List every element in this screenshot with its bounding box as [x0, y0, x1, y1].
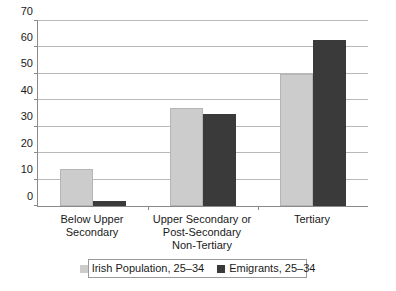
x-axis-category-label-line: Non-Tertiary: [147, 239, 257, 252]
bar-chart-figure: 010203040506070 Irish Population, 25–34 …: [0, 0, 396, 291]
legend-swatch-icon: [217, 265, 225, 273]
bar: [170, 108, 203, 206]
y-tick-mark: [34, 152, 38, 153]
legend-swatch-icon: [80, 265, 88, 273]
y-tick-mark: [34, 126, 38, 127]
legend-label: Emigrants, 25–34: [229, 263, 315, 274]
bar-group: [170, 21, 236, 206]
y-tick-mark: [34, 73, 38, 74]
y-tick-mark: [34, 99, 38, 100]
y-tick-mark: [34, 205, 38, 206]
y-axis-tick-label: 10: [21, 164, 33, 175]
x-tick-mark: [148, 206, 149, 210]
x-axis-category-label: Upper Secondary orPost-SecondaryNon-Tert…: [147, 213, 257, 252]
chart-legend: Irish Population, 25–34 Emigrants, 25–34: [88, 259, 307, 278]
x-axis-category-label-line: Post-Secondary: [147, 226, 257, 239]
y-axis-tick-label: 60: [21, 31, 33, 42]
legend-item-irish-population: Irish Population, 25–34: [80, 263, 205, 274]
bar: [280, 74, 313, 206]
y-tick-mark: [34, 179, 38, 180]
bar: [60, 169, 93, 206]
legend-label: Irish Population, 25–34: [92, 263, 205, 274]
y-axis-tick-label: 20: [21, 137, 33, 148]
bar: [93, 201, 126, 206]
x-axis-category-label-line: Below Upper Secondary: [37, 213, 147, 239]
bar: [203, 114, 236, 207]
bar: [313, 40, 346, 207]
y-tick-mark: [34, 20, 38, 21]
y-axis-tick-label: 30: [21, 111, 33, 122]
x-axis-category-label-line: Tertiary: [257, 213, 367, 226]
x-tick-mark: [258, 206, 259, 210]
y-axis-tick-label: 70: [21, 5, 33, 16]
y-axis-tick-label: 50: [21, 58, 33, 69]
x-axis-category-label: Below Upper Secondary: [37, 213, 147, 239]
legend-item-emigrants: Emigrants, 25–34: [217, 263, 315, 274]
bar-group: [280, 21, 346, 206]
plot-area: 010203040506070: [37, 21, 368, 207]
y-axis-tick-label: 0: [27, 190, 33, 201]
x-axis-category-label-line: Upper Secondary or: [147, 213, 257, 226]
bar-group: [60, 21, 126, 206]
y-axis-tick-label: 40: [21, 84, 33, 95]
y-tick-mark: [34, 46, 38, 47]
x-axis-category-label: Tertiary: [257, 213, 367, 226]
